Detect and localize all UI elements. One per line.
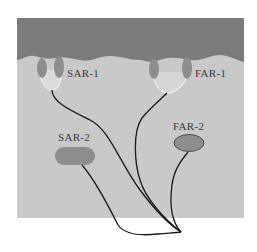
far2-label: FAR-2 [173, 120, 204, 132]
mechanoreceptor-diagram: SAR-1 FAR-1 SAR-2 FAR-2 [0, 0, 257, 252]
far2-receptor [174, 135, 204, 152]
sar2-label: SAR-2 [58, 131, 90, 143]
far1-label: FAR-1 [195, 67, 226, 79]
sar2-receptor [55, 147, 95, 165]
epidermis-layer [17, 18, 244, 62]
sar1-label: SAR-1 [67, 67, 99, 79]
